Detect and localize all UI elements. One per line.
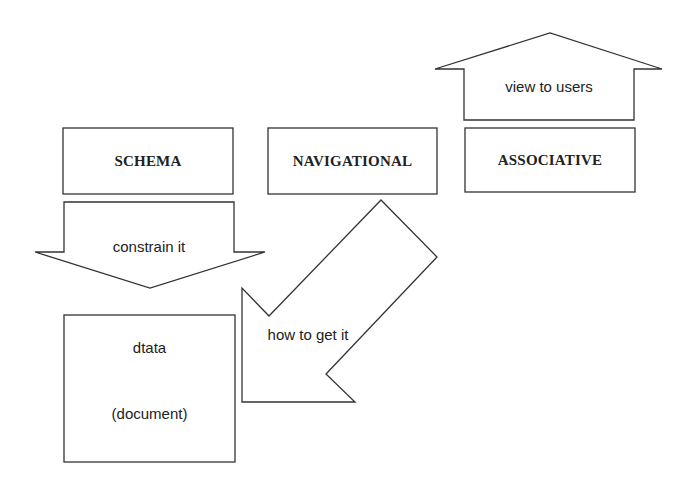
diagonal-arrow-how-to-get-it: [242, 200, 437, 402]
schema-label: SCHEMA: [63, 151, 233, 171]
how-to-get-it-label: how to get it: [258, 325, 358, 345]
associative-label: ASSOCIATIVE: [465, 150, 635, 170]
view-to-users-label: view to users: [464, 77, 634, 97]
navigational-label: NAVIGATIONAL: [268, 151, 437, 171]
constrain-it-label: constrain it: [64, 237, 234, 257]
diagram-canvas: view to users SCHEMA NAVIGATIONAL ASSOCI…: [0, 0, 697, 492]
document-label: (document): [64, 404, 235, 424]
data-label: dtata: [64, 338, 235, 358]
